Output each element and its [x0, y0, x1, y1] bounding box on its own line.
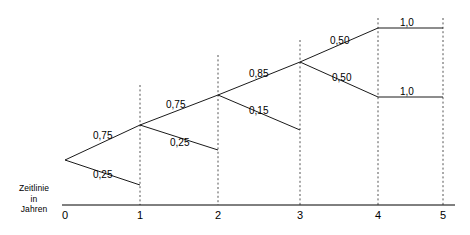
binomial-tree-svg: [0, 0, 470, 235]
edge-probability-label-6: 0,15: [249, 105, 268, 116]
edge-probability-label-1: 0,75: [93, 130, 112, 141]
tick-label-year-5: 5: [433, 209, 453, 221]
tick-label-year-4: 4: [368, 209, 388, 221]
gridlines-group: [140, 18, 443, 205]
edge-probability-label-2: 0,25: [93, 169, 112, 180]
edge-probability-label-9: 1,0: [400, 17, 414, 28]
edge-probability-label-10: 1,0: [400, 86, 414, 97]
tick-label-year-1: 1: [130, 209, 150, 221]
edge-probability-label-5: 0,85: [249, 68, 268, 79]
axis-caption-line-3: Jahren: [6, 204, 62, 215]
axis-caption-line-2: in: [6, 194, 62, 205]
edge-probability-label-7: 0,50: [330, 35, 349, 46]
axis-caption: Zeitlinie in Jahren: [6, 183, 62, 215]
edge-probability-label-4: 0,25: [170, 137, 189, 148]
tick-label-year-3: 3: [290, 209, 310, 221]
axis-caption-line-1: Zeitlinie: [6, 183, 62, 194]
tick-label-year-2: 2: [208, 209, 228, 221]
tick-label-year-0: 0: [55, 209, 75, 221]
edge-probability-label-8: 0,50: [332, 72, 351, 83]
edge-probability-label-3: 0,75: [166, 99, 185, 110]
diagram-canvas: Zeitlinie in Jahren 012345 0,750,250,750…: [0, 0, 470, 235]
